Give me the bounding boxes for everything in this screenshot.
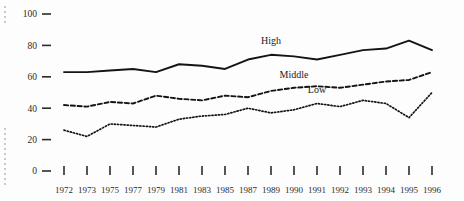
edge-speck xyxy=(4,16,6,18)
edge-speck xyxy=(4,128,6,130)
edge-speck xyxy=(4,138,6,140)
edge-speck xyxy=(4,21,6,23)
x-tick-label-1985: 1985 xyxy=(216,185,235,195)
edge-speck xyxy=(4,158,6,160)
x-axis-tick-labels: 1972197319751977197919811983198519871989… xyxy=(55,185,442,195)
y-tick-label-20: 20 xyxy=(28,135,38,145)
x-tick-label-1987: 1987 xyxy=(239,185,258,195)
y-tick-label-0: 0 xyxy=(32,166,37,176)
edge-speck xyxy=(4,168,6,170)
edge-speck xyxy=(4,11,6,13)
edge-speck xyxy=(4,183,6,185)
series-label-low: Low xyxy=(308,84,327,95)
x-tick-label-1990: 1990 xyxy=(285,185,304,195)
edge-speck xyxy=(4,133,6,135)
x-tick-label-1977: 1977 xyxy=(124,185,143,195)
edge-speck xyxy=(4,178,6,180)
edge-speck xyxy=(4,153,6,155)
x-tick-label-1989: 1989 xyxy=(262,185,281,195)
x-tick-label-1994: 1994 xyxy=(377,185,396,195)
x-tick-label-1972: 1972 xyxy=(55,185,73,195)
x-tick-label-1979: 1979 xyxy=(147,185,166,195)
chart-background xyxy=(0,0,464,201)
x-tick-label-1983: 1983 xyxy=(193,185,212,195)
chart-figure: 020406080100 197219731975197719791981198… xyxy=(0,0,464,201)
edge-speck xyxy=(4,143,6,145)
y-tick-label-100: 100 xyxy=(23,9,38,19)
x-tick-label-1992: 1992 xyxy=(331,185,349,195)
edge-speck xyxy=(4,173,6,175)
series-label-middle: Middle xyxy=(280,69,309,80)
edge-speck xyxy=(4,148,6,150)
series-label-high: High xyxy=(261,35,281,46)
edge-speck xyxy=(4,6,6,8)
y-tick-label-80: 80 xyxy=(28,41,38,51)
x-tick-label-1973: 1973 xyxy=(78,185,97,195)
x-tick-label-1993: 1993 xyxy=(354,185,373,195)
x-tick-label-1996: 1996 xyxy=(423,185,442,195)
x-tick-label-1981: 1981 xyxy=(170,185,188,195)
line-chart: 020406080100 197219731975197719791981198… xyxy=(0,0,464,201)
y-tick-label-40: 40 xyxy=(28,104,38,114)
y-tick-label-60: 60 xyxy=(28,72,38,82)
edge-speck xyxy=(4,163,6,165)
x-tick-label-1991: 1991 xyxy=(308,185,326,195)
x-tick-label-1975: 1975 xyxy=(101,185,120,195)
x-tick-label-1995: 1995 xyxy=(400,185,419,195)
